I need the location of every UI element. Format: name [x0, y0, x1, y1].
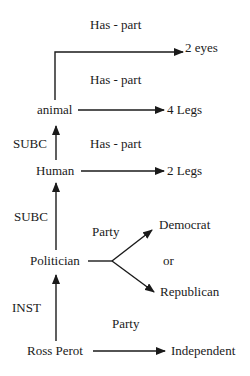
edge-label-perot-inst: INST — [12, 301, 41, 314]
semantic-network-diagram: Has - part Has - part SUBC Has - part SU… — [0, 0, 250, 376]
node-politician: Politician — [30, 254, 80, 267]
edge-label-human-subc: SUBC — [13, 137, 47, 150]
node-democrat: Democrat — [159, 218, 210, 231]
edge-label-politician-party: Party — [92, 225, 119, 238]
node-independent: Independent — [171, 344, 235, 357]
edge-label-animal-eyes: Has - part — [90, 18, 141, 31]
node-or: or — [163, 254, 174, 267]
edge-label-animal-legs: Has - part — [90, 73, 141, 86]
node-2-legs: 2 Legs — [167, 164, 202, 177]
node-4-legs: 4 Legs — [167, 103, 202, 116]
edge-label-politician-subc: SUBC — [14, 210, 48, 223]
node-ross-perot: Ross Perot — [27, 344, 83, 357]
edge-label-perot-party: Party — [112, 317, 139, 330]
edge-label-human-legs: Has - part — [90, 137, 141, 150]
node-animal: animal — [37, 103, 72, 116]
edge-branch-republican — [112, 261, 154, 292]
node-human: Human — [36, 164, 74, 177]
node-republican: Republican — [160, 285, 219, 298]
node-2-eyes: 2 eyes — [185, 41, 218, 54]
